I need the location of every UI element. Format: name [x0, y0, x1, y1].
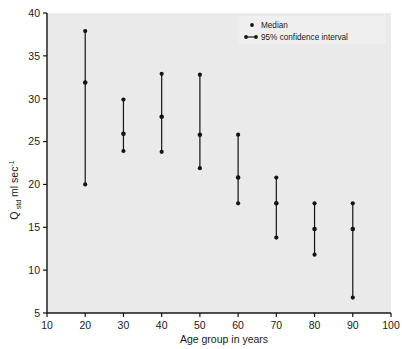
- y-axis-tick-label: 40: [28, 7, 40, 19]
- x-axis-tick-label: 90: [347, 319, 359, 331]
- y-axis-title-main: Q: [8, 212, 20, 220]
- legend-median-marker-icon: [250, 23, 254, 27]
- lower-ci-marker: [312, 253, 316, 257]
- legend: Median 95% confidence interval: [239, 16, 386, 44]
- chart-figure: 510152025303540 102030405060708090100 Q˙…: [0, 0, 402, 349]
- y-axis-tick-label: 20: [28, 178, 40, 190]
- x-axis-tick-label: 70: [270, 319, 282, 331]
- median-marker: [198, 132, 203, 137]
- median-marker: [312, 227, 317, 232]
- lower-ci-marker: [121, 149, 125, 153]
- x-axis-title: Age group in years: [180, 333, 268, 345]
- svg-text:Q˙std ml sec-1: Q˙std ml sec-1: [8, 160, 22, 219]
- x-axis-tick-labels: 102030405060708090100: [41, 319, 400, 331]
- median-marker: [159, 114, 164, 119]
- y-axis-title-unit: ml sec: [8, 167, 20, 200]
- x-axis-tick-label: 80: [309, 319, 321, 331]
- x-axis-tick-label: 20: [79, 319, 91, 331]
- y-axis-title: Q˙std ml sec-1: [8, 160, 22, 219]
- upper-ci-marker: [351, 201, 355, 205]
- upper-ci-marker: [83, 29, 87, 33]
- y-axis-tick-label: 15: [28, 221, 40, 233]
- median-marker: [274, 201, 279, 206]
- y-axis-tick-label: 35: [28, 50, 40, 62]
- x-axis-tick-label: 60: [232, 319, 244, 331]
- x-axis-tick-label: 100: [382, 319, 400, 331]
- legend-ci-marker-upper-icon: [254, 35, 258, 39]
- lower-ci-marker: [198, 166, 202, 170]
- y-axis-tick-label: 5: [34, 307, 40, 319]
- y-axis-title-exponent: -1: [8, 160, 15, 166]
- y-axis-title-subscript: std: [15, 200, 22, 209]
- y-axis-title-dot: ˙: [8, 209, 15, 211]
- y-axis-tick-label: 10: [28, 264, 40, 276]
- median-marker: [83, 80, 88, 85]
- lower-ci-marker: [83, 182, 87, 186]
- legend-ci-label: 95% confidence interval: [261, 33, 348, 42]
- median-marker: [236, 175, 241, 180]
- x-axis-tick-label: 50: [194, 319, 206, 331]
- y-axis-tick-label: 25: [28, 135, 40, 147]
- upper-ci-marker: [160, 72, 164, 76]
- lower-ci-marker: [160, 150, 164, 154]
- lower-ci-marker: [274, 235, 278, 239]
- scatter-plot: 510152025303540 102030405060708090100 Q˙…: [0, 0, 402, 349]
- lower-ci-marker: [351, 295, 355, 299]
- y-axis-tick-labels: 510152025303540: [28, 7, 40, 319]
- lower-ci-marker: [236, 201, 240, 205]
- legend-ci-marker-lower-icon: [244, 35, 248, 39]
- plot-background: [47, 13, 391, 313]
- x-axis-tick-label: 40: [156, 319, 168, 331]
- upper-ci-marker: [274, 175, 278, 179]
- y-axis-tick-label: 30: [28, 93, 40, 105]
- legend-median-label: Median: [261, 21, 288, 30]
- median-marker: [350, 227, 355, 232]
- upper-ci-marker: [121, 97, 125, 101]
- x-axis-tick-label: 10: [41, 319, 53, 331]
- upper-ci-marker: [236, 133, 240, 137]
- upper-ci-marker: [312, 201, 316, 205]
- x-axis-tick-label: 30: [118, 319, 130, 331]
- upper-ci-marker: [198, 73, 202, 77]
- median-marker: [121, 132, 126, 137]
